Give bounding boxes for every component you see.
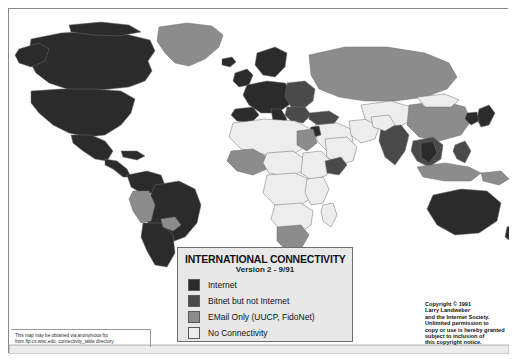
text-line-6: this copyright notice. xyxy=(425,339,509,345)
poster-canvas: INTERNATIONAL CONNECTIVITY Version 2 - 9… xyxy=(0,0,518,363)
legend-swatch-internet xyxy=(188,279,200,291)
ftp-availability-note: This map may be obtained via anonymous f… xyxy=(11,329,151,347)
legend-swatch-email-only xyxy=(188,311,200,323)
legend-panel: INTERNATIONAL CONNECTIVITY Version 2 - 9… xyxy=(177,247,353,342)
poster-frame: INTERNATIONAL CONNECTIVITY Version 2 - 9… xyxy=(8,8,508,353)
text-line-1: from ftp.cs.wisc.edu, connectivity_table… xyxy=(15,339,148,345)
legend-label-no-connectivity: No Connectivity xyxy=(208,328,268,338)
legend-subtitle: Version 2 - 9/91 xyxy=(185,265,345,275)
legend-title: INTERNATIONAL CONNECTIVITY xyxy=(185,253,345,265)
legend-item-no-connectivity: No Connectivity xyxy=(185,326,345,339)
legend-label-internet: Internet xyxy=(208,280,237,290)
legend-swatch-no-connectivity xyxy=(188,327,200,339)
copyright-notice: Copyright © 1991Larry Landweberand the I… xyxy=(425,301,509,346)
legend-label-bitnet: Bitnet but not Internet xyxy=(208,296,289,306)
legend-item-email-only: EMail Only (UUCP, FidoNet) xyxy=(185,310,345,323)
legend-swatch-bitnet xyxy=(188,295,200,307)
legend-item-internet: Internet xyxy=(185,278,345,291)
legend-item-bitnet: Bitnet but not Internet xyxy=(185,294,345,307)
legend-label-email-only: EMail Only (UUCP, FidoNet) xyxy=(208,312,315,322)
